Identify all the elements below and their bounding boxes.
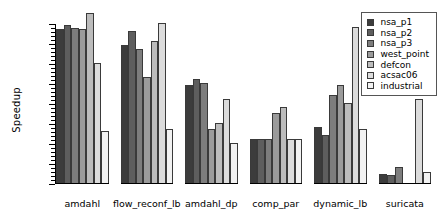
bar[interactable] — [193, 79, 201, 183]
group-baseline — [314, 183, 367, 184]
y-axis-minor-tick — [51, 172, 55, 173]
legend-item[interactable]: west_point — [367, 49, 429, 60]
bar[interactable] — [250, 139, 258, 183]
bar[interactable] — [128, 31, 136, 183]
y-axis-minor-tick — [51, 132, 55, 133]
bar[interactable] — [265, 139, 273, 183]
legend-item[interactable]: industrial — [367, 81, 429, 92]
bar[interactable] — [352, 27, 360, 183]
legend-swatch-icon — [367, 51, 374, 58]
y-axis-minor-tick — [51, 160, 55, 161]
y-axis-minor-tick — [51, 120, 55, 121]
legend-label: nsa_p1 — [380, 17, 412, 27]
bar[interactable] — [71, 28, 79, 183]
group-baseline — [121, 183, 174, 184]
y-axis-minor-tick — [51, 60, 55, 61]
y-axis-minor-tick — [51, 176, 55, 177]
legend-item[interactable]: acsac06 — [367, 70, 429, 81]
y-axis-minor-tick — [51, 80, 55, 81]
speedup-bar-chart: Speedup 0.00.51.01.52.02.53.03.54.0 amda… — [0, 0, 441, 219]
bar[interactable] — [215, 123, 223, 183]
y-axis-minor-tick — [51, 68, 55, 69]
y-axis-minor-tick — [51, 28, 55, 29]
y-axis-minor-tick — [51, 96, 55, 97]
bar[interactable] — [329, 95, 337, 183]
bar[interactable] — [143, 77, 151, 183]
legend-item[interactable]: nsa_p3 — [367, 38, 429, 49]
bar[interactable] — [86, 13, 94, 183]
bar[interactable] — [158, 23, 166, 183]
x-axis-tick-label: amdahl_dp — [185, 198, 237, 209]
bar[interactable] — [230, 143, 238, 183]
legend-item[interactable]: nsa_p2 — [367, 28, 429, 39]
y-axis-tick-label-wrap: 3.5 — [0, 44, 55, 45]
bar[interactable] — [64, 25, 72, 183]
y-axis-minor-tick — [51, 52, 55, 53]
bar[interactable] — [379, 174, 387, 183]
y-axis-minor-tick — [51, 40, 55, 41]
bar[interactable] — [101, 131, 109, 183]
y-axis-label: Speedup — [11, 87, 22, 132]
bar[interactable] — [208, 129, 216, 183]
bar[interactable] — [200, 83, 208, 183]
y-axis-minor-tick — [51, 56, 55, 57]
legend-label: nsa_p3 — [380, 38, 412, 48]
bar[interactable] — [295, 139, 303, 183]
bar-group: amdahl_dp — [185, 24, 238, 184]
bar[interactable] — [423, 172, 431, 183]
bar[interactable] — [314, 127, 322, 183]
bar-group: dynamic_lb — [314, 24, 367, 184]
y-axis-minor-tick — [51, 128, 55, 129]
y-axis-minor-tick — [51, 112, 55, 113]
bar[interactable] — [337, 85, 345, 183]
y-axis-minor-tick — [51, 100, 55, 101]
y-axis-minor-tick — [51, 88, 55, 89]
y-axis-tick-label-wrap: 0.5 — [0, 164, 55, 165]
group-baseline — [379, 183, 432, 184]
bar[interactable] — [94, 63, 102, 183]
y-axis-tick-label-wrap: 2.0 — [0, 104, 55, 105]
legend-swatch-icon — [367, 82, 374, 89]
y-axis-minor-tick — [51, 108, 55, 109]
bar[interactable] — [223, 99, 231, 183]
y-axis-tick-label-wrap: 1.0 — [0, 144, 55, 145]
group-baseline — [56, 183, 109, 184]
legend-swatch-icon — [367, 72, 374, 79]
x-axis-tick-label: amdahl — [64, 198, 100, 209]
bar[interactable] — [280, 107, 288, 183]
bar-group: amdahl — [56, 24, 109, 184]
bar[interactable] — [79, 29, 87, 183]
y-axis-tick-label-wrap: 3.0 — [0, 64, 55, 65]
group-baseline — [185, 183, 238, 184]
x-axis-tick-label: dynamic_lb — [313, 198, 367, 209]
bar[interactable] — [151, 41, 159, 183]
bar[interactable] — [121, 45, 129, 183]
bar[interactable] — [56, 29, 64, 183]
legend-swatch-icon — [367, 19, 374, 26]
y-axis-minor-tick — [51, 92, 55, 93]
y-axis-minor-tick — [51, 32, 55, 33]
bar[interactable] — [322, 135, 330, 183]
bar[interactable] — [272, 113, 280, 183]
bar[interactable] — [185, 85, 193, 183]
bar[interactable] — [344, 103, 352, 183]
legend-item[interactable]: nsa_p1 — [367, 17, 429, 28]
bar[interactable] — [415, 99, 423, 183]
y-axis-minor-tick — [51, 136, 55, 137]
bar[interactable] — [395, 167, 403, 183]
legend-item[interactable]: defcon — [367, 59, 429, 70]
bar-group: comp_par — [250, 24, 303, 184]
bar[interactable] — [287, 139, 295, 183]
group-baseline — [250, 183, 303, 184]
legend-label: industrial — [380, 81, 422, 91]
bar[interactable] — [257, 139, 265, 183]
bar-set — [185, 23, 238, 183]
bar[interactable] — [136, 49, 144, 183]
bar[interactable] — [166, 129, 174, 183]
y-axis-tick-label-wrap: 1.5 — [0, 124, 55, 125]
bar-group: flow_reconf_lb — [121, 24, 174, 184]
bar[interactable] — [387, 175, 395, 183]
y-axis-minor-tick — [51, 48, 55, 49]
bar[interactable] — [359, 129, 367, 183]
y-axis-tick-label-wrap: 4.0 — [0, 24, 55, 25]
